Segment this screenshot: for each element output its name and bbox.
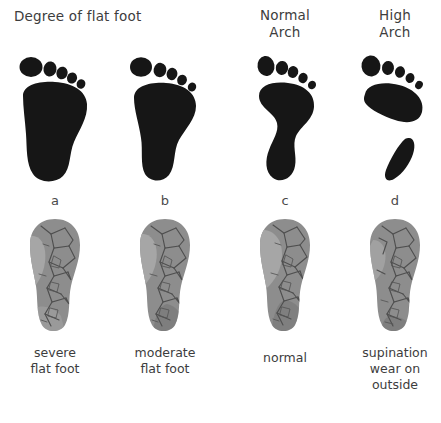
label-letter-d: d <box>340 193 441 208</box>
flat-foot-diagram: Degree of flat foot Normal Arch High Arc… <box>0 0 441 423</box>
column-c-normal-arch: c <box>230 50 340 423</box>
header-high-arch: High Arch <box>350 7 440 41</box>
caption-b: moderate flat foot <box>106 345 224 377</box>
header-high-arch-line1: High <box>350 7 440 24</box>
column-d-high-arch: d <box>340 50 441 423</box>
label-letter-c: c <box>230 193 340 208</box>
shoe-sole-d <box>340 216 441 336</box>
label-letter-b: b <box>110 193 220 208</box>
footprint-b <box>110 50 220 190</box>
caption-b-line1: moderate <box>106 345 224 361</box>
header-normal-arch-line2: Arch <box>230 24 340 41</box>
column-b-moderate-flat-foot: b <box>110 50 220 423</box>
header-normal-arch: Normal Arch <box>230 7 340 41</box>
header-high-arch-line2: Arch <box>350 24 440 41</box>
footprint-c <box>230 50 340 190</box>
caption-a-line2: flat foot <box>0 361 114 377</box>
header-row: Degree of flat foot Normal Arch High Arc… <box>0 0 441 50</box>
caption-a-line1: severe <box>0 345 114 361</box>
shoe-sole-a <box>0 216 110 336</box>
caption-d: supination wear on outside <box>336 345 441 393</box>
caption-c: normal <box>226 350 344 366</box>
caption-a: severe flat foot <box>0 345 114 377</box>
label-letter-a: a <box>0 193 110 208</box>
shoe-sole-c <box>230 216 340 336</box>
footprint-d <box>340 50 441 190</box>
caption-d-line1: supination <box>336 345 441 361</box>
caption-d-line3: outside <box>336 377 441 393</box>
column-a-severe-flat-foot: a <box>0 50 110 423</box>
header-normal-arch-line1: Normal <box>230 7 340 24</box>
header-degree-of-flat-foot: Degree of flat foot <box>14 8 224 25</box>
caption-c-line1: normal <box>226 350 344 366</box>
caption-d-line2: wear on <box>336 361 441 377</box>
footprint-a <box>0 50 110 190</box>
caption-b-line2: flat foot <box>106 361 224 377</box>
shoe-sole-b <box>110 216 220 336</box>
